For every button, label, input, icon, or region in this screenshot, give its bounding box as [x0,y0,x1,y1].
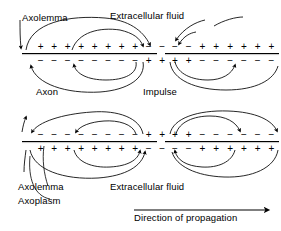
positive-charge-symbol: + [61,42,75,52]
negative-charge-symbol: − [129,130,143,140]
positive-charge-symbol: + [156,130,170,140]
positive-charge-symbol: + [237,42,251,52]
negative-charge-symbol: − [129,56,143,66]
positive-charge-symbol: + [168,130,182,140]
negative-charge-symbol: − [182,42,196,52]
positive-charge-symbol: + [196,144,210,154]
positive-charge-symbol: + [168,56,182,66]
negative-charge-symbol: − [237,130,251,140]
label-axon: Axon [36,86,58,97]
positive-charge-symbol: + [251,42,265,52]
positive-charge-symbol: + [115,144,129,154]
negative-charge-symbol: − [48,130,62,140]
negative-charge-symbol: − [168,144,182,154]
negative-charge-symbol: − [75,56,89,66]
negative-charge-symbol: − [156,42,170,52]
positive-charge-symbol: + [142,56,156,66]
negative-charge-symbol: − [196,56,210,66]
negative-charge-symbol: − [156,144,170,154]
positive-charge-symbol: + [129,42,143,52]
positive-charge-symbol: + [48,144,62,154]
charge-row-bottom-right-inner: −−++++++ [168,144,278,154]
positive-charge-symbol: + [265,42,279,52]
positive-charge-symbol: + [182,56,196,66]
positive-charge-symbol: + [88,144,102,154]
positive-charge-symbol: + [251,144,265,154]
charge-row-bottom-right-outer: ++−−−−−− [168,130,278,140]
positive-charge-symbol: + [156,56,170,66]
negative-charge-symbol: − [61,56,75,66]
negative-charge-symbol: − [142,144,156,154]
positive-charge-symbol: + [88,42,102,52]
negative-charge-symbol: − [102,56,116,66]
positive-charge-symbol: + [196,42,210,52]
negative-charge-symbol: − [209,56,223,66]
negative-charge-symbol: − [182,144,196,154]
negative-charge-symbol: − [168,42,182,52]
positive-charge-symbol: + [209,144,223,154]
negative-charge-symbol: − [251,56,265,66]
negative-charge-symbol: − [34,130,48,140]
bottom-inside-current-loops [24,150,278,178]
charge-row-bottom-left-outer: −−−−−−−−++ [34,130,169,140]
charge-row-top-left-inner: −−−−−−−−++ [34,56,169,66]
label-axoplasm: Axoplasm [18,195,61,206]
negative-charge-symbol: − [237,56,251,66]
positive-charge-symbol: + [182,130,196,140]
positive-charge-symbol: + [223,42,237,52]
label-extracellular-fluid-bottom: Extracellular fluid [110,181,184,192]
positive-charge-symbol: + [237,144,251,154]
diagram-canvas: ++++++++−− −−−−−−−−++ −−++++++ ++−−−−−− … [0,0,281,231]
positive-charge-symbol: + [34,144,48,154]
negative-charge-symbol: − [223,56,237,66]
positive-charge-symbol: + [223,144,237,154]
positive-charge-symbol: + [265,144,279,154]
negative-charge-symbol: − [251,130,265,140]
charge-row-bottom-left-inner: ++++++++−− [34,144,169,154]
positive-charge-symbol: + [75,144,89,154]
positive-charge-symbol: + [75,42,89,52]
positive-charge-symbol: + [115,42,129,52]
positive-charge-symbol: + [61,144,75,154]
positive-charge-symbol: + [142,130,156,140]
negative-charge-symbol: − [102,130,116,140]
positive-charge-symbol: + [102,42,116,52]
charge-row-top-right-inner: ++−−−−−− [168,56,278,66]
positive-charge-symbol: + [209,42,223,52]
label-axolemma-top: Axolemma [22,12,68,23]
label-direction-of-propagation: Direction of propagation [134,212,237,223]
positive-charge-symbol: + [129,144,143,154]
negative-charge-symbol: − [142,42,156,52]
positive-charge-symbol: + [102,144,116,154]
negative-charge-symbol: − [223,130,237,140]
label-impulse: Impulse [143,86,177,97]
negative-charge-symbol: − [115,130,129,140]
charge-row-top-left-outer: ++++++++−− [34,42,169,52]
negative-charge-symbol: − [48,56,62,66]
negative-charge-symbol: − [265,56,279,66]
negative-charge-symbol: − [88,130,102,140]
negative-charge-symbol: − [209,130,223,140]
positive-charge-symbol: + [48,42,62,52]
negative-charge-symbol: − [61,130,75,140]
negative-charge-symbol: − [115,56,129,66]
charge-row-top-right-outer: −−++++++ [168,42,278,52]
negative-charge-symbol: − [88,56,102,66]
label-axolemma-bottom: Axolemma [18,181,64,192]
negative-charge-symbol: − [196,130,210,140]
negative-charge-symbol: − [75,130,89,140]
negative-charge-symbol: − [265,130,279,140]
positive-charge-symbol: + [34,42,48,52]
label-extracellular-fluid-top: Extracellular fluid [110,10,184,21]
negative-charge-symbol: − [34,56,48,66]
